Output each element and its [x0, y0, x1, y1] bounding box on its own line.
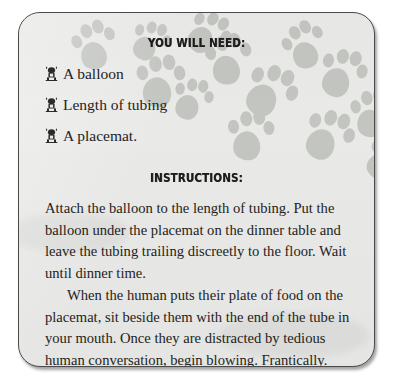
- instruction-paragraph-1: Attach the balloon to the length of tubi…: [45, 198, 365, 284]
- list-item-label: A placemat.: [63, 127, 137, 144]
- instructions-heading: INSTRUCTIONS:: [40, 170, 352, 185]
- list-item: Length of tubing: [45, 96, 295, 127]
- list-item-label: Length of tubing: [63, 96, 167, 113]
- list-item-label: A balloon: [63, 65, 124, 82]
- page-root: YOU WILL NEED:: [0, 0, 393, 387]
- you-will-need-heading: YOU WILL NEED:: [40, 35, 352, 50]
- list-item: A placemat.: [45, 127, 295, 158]
- supply-list: A balloon: [45, 65, 295, 158]
- instruction-paragraph-2: When the human puts their plate of food …: [45, 285, 365, 367]
- dog-bullet-icon: [45, 66, 58, 81]
- dog-bullet-icon: [45, 97, 58, 112]
- list-item: A balloon: [45, 65, 295, 96]
- dog-bullet-icon: [45, 128, 58, 143]
- instruction-card: YOU WILL NEED:: [18, 12, 375, 367]
